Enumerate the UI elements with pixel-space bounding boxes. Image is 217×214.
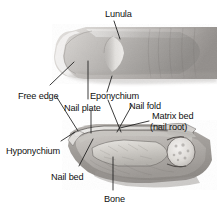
label-nail-fold: Nail fold — [129, 101, 161, 111]
dorsal-fingertip-illustration — [52, 24, 217, 84]
nail-anatomy-figure: Lunula Free edge Eponychium Nail plate N… — [0, 0, 217, 214]
label-free-edge: Free edge — [18, 91, 59, 101]
label-lunula: Lunula — [105, 9, 132, 19]
label-eponychium: Eponychium — [90, 91, 139, 101]
sagittal-section-illustration — [62, 120, 217, 190]
label-nail-bed: Nail bed — [51, 172, 84, 182]
label-nail-root: (nail root) — [150, 122, 187, 132]
label-matrix-bed: Matrix bed — [152, 111, 193, 121]
label-hyponychium: Hyponychium — [6, 146, 60, 156]
label-bone: Bone — [104, 194, 125, 204]
anatomy-illustration — [0, 0, 217, 214]
label-nail-plate: Nail plate — [64, 103, 101, 113]
